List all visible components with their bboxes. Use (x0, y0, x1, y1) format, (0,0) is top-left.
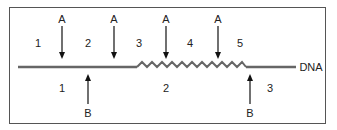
bottom-region-label: 3 (267, 83, 273, 94)
arrow-a-icon (163, 26, 169, 59)
dna-label: DNA (299, 62, 322, 73)
arrow-a-icon (111, 26, 117, 59)
bottom-region-label: 1 (59, 83, 65, 94)
arrow-b-label: B (84, 108, 91, 119)
arrow-a-icon (59, 26, 65, 59)
arrow-a-icon (215, 26, 221, 59)
arrow-a-label: A (58, 14, 65, 25)
bottom-region-label: 2 (163, 83, 169, 94)
arrow-b-label: B (246, 108, 253, 119)
top-region-label: 5 (237, 38, 243, 49)
arrow-a-label: A (162, 14, 169, 25)
top-region-label: 4 (187, 38, 193, 49)
arrow-a-label: A (110, 14, 117, 25)
dna-strand-zigzag (137, 62, 246, 67)
top-region-label: 3 (136, 38, 142, 49)
top-region-label: 2 (85, 38, 91, 49)
arrow-b-icon (85, 74, 91, 104)
top-region-label: 1 (35, 38, 41, 49)
arrow-b-icon (247, 74, 253, 104)
arrow-a-label: A (214, 14, 221, 25)
